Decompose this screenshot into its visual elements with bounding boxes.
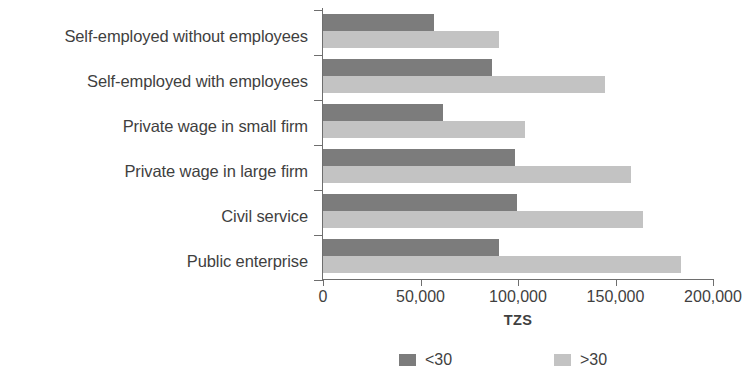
- y-axis-tick: [314, 10, 323, 11]
- bar-over30: [323, 76, 605, 93]
- bar-over30: [323, 211, 643, 228]
- y-axis-tick: [314, 190, 323, 191]
- bar-over30: [323, 256, 681, 273]
- x-axis-tick-label: 200,000: [684, 288, 742, 306]
- x-axis-tick: [518, 279, 519, 286]
- legend-item[interactable]: <30: [399, 352, 452, 368]
- x-axis-tick-label: 150,000: [587, 288, 645, 306]
- bar-under30: [323, 239, 499, 256]
- bar-under30: [323, 104, 443, 121]
- bar-under30: [323, 194, 517, 211]
- bar-under30: [323, 14, 434, 31]
- x-axis-tick: [421, 279, 422, 286]
- legend-item[interactable]: >30: [554, 352, 607, 368]
- category-label: Public enterprise: [0, 252, 308, 270]
- legend-swatch-icon: [399, 354, 416, 366]
- chart-legend: <30>30: [0, 352, 737, 374]
- category-label: Self-employed with employees: [0, 72, 308, 90]
- y-axis-tick: [314, 100, 323, 101]
- category-label: Private wage in large firm: [0, 162, 308, 180]
- bar-under30: [323, 149, 515, 166]
- bar-over30: [323, 121, 525, 138]
- x-axis-title: TZS: [323, 312, 713, 328]
- legend-swatch-icon: [554, 354, 571, 366]
- x-axis-tick: [323, 279, 324, 286]
- y-axis-tick: [314, 280, 323, 281]
- x-axis-tick: [616, 279, 617, 286]
- y-axis-tick: [314, 235, 323, 236]
- y-axis-tick: [314, 145, 323, 146]
- x-axis-tick-label: 50,000: [396, 288, 445, 306]
- x-axis-tick-label: 100,000: [489, 288, 547, 306]
- x-axis-tick-label: 0: [319, 288, 328, 306]
- y-axis-category-labels: Self-employed without employeesSelf-empl…: [0, 8, 308, 278]
- bar-under30: [323, 59, 492, 76]
- plot-area: [323, 8, 713, 278]
- bar-over30: [323, 166, 631, 183]
- bar-over30: [323, 31, 499, 48]
- category-label: Private wage in small firm: [0, 117, 308, 135]
- x-axis-tick: [713, 279, 714, 286]
- y-axis-line: [322, 8, 323, 279]
- category-label: Self-employed without employees: [0, 27, 308, 45]
- legend-label: <30: [425, 352, 452, 368]
- y-axis-tick: [314, 55, 323, 56]
- category-label: Civil service: [0, 207, 308, 225]
- legend-label: >30: [580, 352, 607, 368]
